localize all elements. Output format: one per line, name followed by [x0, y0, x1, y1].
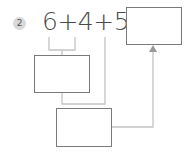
answer-box[interactable]: [126, 7, 182, 45]
step1-box[interactable]: [34, 55, 90, 93]
arrow-up-icon: [149, 45, 157, 52]
step2-box[interactable]: [56, 108, 112, 147]
